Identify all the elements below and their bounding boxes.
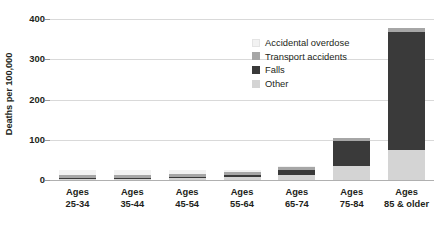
x-axis-label-line1: Ages (231, 187, 254, 197)
legend-label: Other (265, 79, 288, 88)
bar-stack[interactable] (388, 28, 425, 180)
y-tick-label-200: 200 (9, 95, 45, 104)
legend-item[interactable]: Falls (252, 63, 382, 77)
x-axis-label-line1: Ages (66, 187, 89, 197)
legend-swatch-icon (252, 66, 260, 74)
bar-stack[interactable] (114, 170, 151, 180)
y-tick-mark-0 (45, 180, 50, 181)
x-axis-label-line1: Ages (340, 187, 363, 197)
bar-stack[interactable] (224, 170, 261, 180)
legend-swatch-icon (252, 39, 260, 47)
legend-label: Transport accidents (265, 52, 347, 61)
bar-segment (224, 177, 261, 180)
bar-segment (333, 166, 370, 180)
y-tick-label-0: 0 (9, 175, 45, 184)
legend-swatch-icon (252, 52, 260, 60)
bar-stack[interactable] (169, 170, 206, 180)
x-axis-label: Ages85 & older (367, 187, 434, 210)
bar-stack[interactable] (333, 138, 370, 180)
chart-figure: Deaths per 100,000 0100200300400 Ages25-… (0, 0, 434, 234)
x-axis-label-line1: Ages (176, 187, 199, 197)
bar-segment (388, 32, 425, 150)
bar-segment (114, 179, 151, 180)
x-axis-label-line1: Ages (395, 187, 418, 197)
legend-item[interactable]: Other (252, 77, 382, 91)
gridline-0 (50, 180, 434, 181)
bar-segment (333, 141, 370, 166)
bar-stack[interactable] (278, 166, 315, 180)
bar-segment (278, 175, 315, 180)
x-axis-label-line1: Ages (285, 187, 308, 197)
legend-label: Accidental overdose (265, 38, 349, 47)
x-axis-labels: Ages25-34Ages35-44Ages45-54Ages55-64Ages… (50, 187, 434, 221)
bar-segment (388, 150, 425, 180)
y-tick-label-400: 400 (9, 14, 45, 23)
y-tick-label-300: 300 (9, 54, 45, 63)
legend-item[interactable]: Transport accidents (252, 50, 382, 64)
bar-segment (59, 179, 96, 180)
legend-swatch-icon (252, 80, 260, 88)
x-axis-label-line2: 85 & older (367, 199, 434, 211)
bar-segment (169, 178, 206, 180)
y-tick-label-100: 100 (9, 135, 45, 144)
legend-item[interactable]: Accidental overdose (252, 36, 382, 50)
x-axis-label-line1: Ages (121, 187, 144, 197)
bar-stack[interactable] (59, 170, 96, 180)
legend-label: Falls (265, 65, 285, 74)
chart-legend: Accidental overdoseTransport accidentsFa… (252, 36, 382, 90)
